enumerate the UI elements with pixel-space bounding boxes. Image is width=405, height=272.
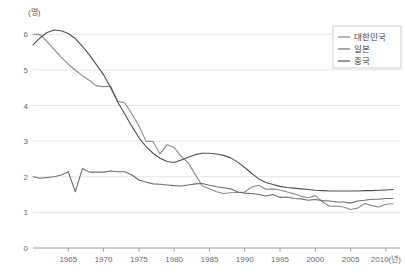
series-line-japan: [33, 169, 393, 204]
y-axis-labels-group: 6543210: [24, 30, 29, 253]
x-tick-label-1995: 1995: [271, 255, 289, 264]
x-tick-label-1965: 1965: [59, 255, 77, 264]
y-tick-label-3: 3: [24, 137, 29, 146]
x-tick-label-2010: 2010(년): [371, 254, 401, 264]
line-chart: 6543210 19651970197519801985199019952000…: [0, 0, 405, 272]
legend-label-2: 중국: [354, 56, 370, 66]
y-tick-label-4: 4: [24, 102, 29, 111]
chart-container: 6543210 19651970197519801985199019952000…: [0, 0, 405, 272]
x-axis-labels-group: 1965197019751980198519901995200020052010…: [59, 254, 401, 264]
x-tick-label-1980: 1980: [165, 255, 183, 264]
x-tick-label-1975: 1975: [130, 255, 148, 264]
x-tick-label-2005: 2005: [342, 255, 360, 264]
x-tick-label-1970: 1970: [95, 255, 113, 264]
x-tick-label-2000: 2000: [306, 255, 324, 264]
legend: 대한민국일본중국: [333, 26, 401, 68]
x-tick-label-1985: 1985: [201, 255, 219, 264]
legend-label-1: 일본: [354, 44, 370, 54]
y-tick-label-2: 2: [24, 173, 29, 182]
y-tick-label-0: 0: [24, 244, 29, 253]
y-tick-label-5: 5: [24, 66, 29, 75]
x-axis-ticks-group: [68, 248, 386, 252]
legend-label-0: 대한민국: [354, 32, 386, 42]
y-tick-label-6: 6: [24, 30, 29, 39]
y-axis-unit-label: (명): [28, 7, 41, 17]
y-tick-label-1: 1: [24, 208, 29, 217]
x-tick-label-1990: 1990: [236, 255, 254, 264]
